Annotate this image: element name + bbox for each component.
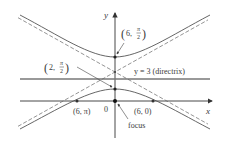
focus-pointer [118, 104, 128, 119]
upper-vertex-label: ( 6, π 2 ) [121, 26, 146, 41]
focus-point [113, 99, 117, 103]
origin-label: 0 [104, 105, 108, 114]
hyperbola-diagram: y x 0 ( 6, π 2 ) ( 2, π 2 ) y = 3 (direc… [0, 0, 226, 143]
svg-text:2: 2 [137, 34, 140, 40]
focus-label: focus [128, 121, 145, 130]
svg-text:(: ( [44, 61, 48, 75]
lower-vertex-label: ( 2, π 2 ) [44, 60, 69, 75]
upper-vertex-pointer [117, 43, 124, 54]
svg-text:π: π [137, 26, 141, 32]
svg-text:2,: 2, [49, 63, 55, 72]
x-axis-label: x [205, 106, 210, 116]
upper-vertex-point [113, 55, 116, 58]
left-x-intercept-label: (6, π) [73, 107, 91, 116]
left-x-intercept-point [76, 100, 79, 103]
right-x-intercept-label: (6, 0) [134, 107, 152, 116]
lower-vertex-point [113, 87, 116, 90]
directrix-label: y = 3 (directrix) [134, 67, 185, 76]
svg-text:2: 2 [60, 68, 63, 74]
right-x-intercept-point [152, 100, 155, 103]
y-axis-label: y [103, 10, 108, 20]
svg-text:6,: 6, [126, 29, 132, 38]
svg-text:(: ( [121, 27, 125, 41]
svg-text:): ) [142, 27, 146, 41]
svg-text:π: π [60, 60, 64, 66]
svg-text:): ) [65, 61, 69, 75]
lower-vertex-pointer [77, 67, 112, 87]
asymptote-center-point [114, 71, 116, 73]
